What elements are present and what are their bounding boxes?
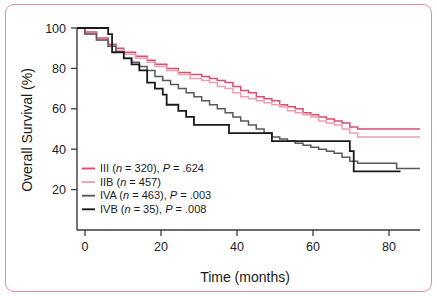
- y-tick-label-20: 20: [52, 183, 66, 197]
- y-axis-ticks: [71, 28, 77, 190]
- kaplan-meier-plot: 100 80 60 40 20 0 20 40 60 80 Overall Su…: [0, 0, 437, 296]
- x-axis-title: Time (months): [200, 269, 290, 285]
- chart-legend: III (n = 320), P = .624IIB (n = 457)IVA …: [82, 162, 211, 215]
- x-tick-label-40: 40: [230, 240, 244, 254]
- y-axis-title: Overall Survival (%): [19, 68, 35, 192]
- x-tick-label-0: 0: [82, 240, 89, 254]
- legend-label-iib: IIB (n = 457): [100, 176, 161, 188]
- y-tick-label-80: 80: [52, 62, 66, 76]
- x-axis-ticks: [85, 230, 389, 236]
- legend-label-iii: III (n = 320), P = .624: [100, 162, 204, 174]
- y-tick-label-60: 60: [52, 102, 66, 116]
- legend-label-ivb: IVB (n = 35), P = .008: [100, 203, 206, 215]
- legend-label-iva: IVA (n = 463), P = .003: [100, 189, 211, 201]
- x-tick-label-20: 20: [154, 240, 168, 254]
- survival-curves: [77, 28, 420, 171]
- survival-curve-figure: 100 80 60 40 20 0 20 40 60 80 Overall Su…: [0, 0, 437, 296]
- x-tick-label-60: 60: [306, 240, 320, 254]
- x-tick-label-80: 80: [382, 240, 396, 254]
- y-tick-label-100: 100: [45, 22, 66, 36]
- survival-curve-iii: [77, 28, 420, 129]
- y-tick-label-40: 40: [52, 143, 66, 157]
- survival-curve-ivb: [77, 28, 401, 171]
